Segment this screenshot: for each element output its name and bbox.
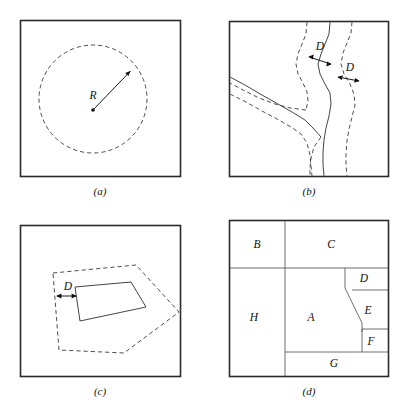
region-c: C <box>327 238 335 250</box>
panel-c-frame <box>21 226 181 377</box>
panel-a-frame <box>21 21 181 177</box>
figure-canvas: R <box>0 0 408 410</box>
region-d: D <box>359 272 369 284</box>
region-b: B <box>253 238 260 250</box>
caption-a: (a) <box>94 185 107 198</box>
distance-label: D <box>63 280 73 292</box>
region-g: G <box>330 357 339 369</box>
region-f: F <box>366 335 375 347</box>
figure-root: R <box>0 0 408 410</box>
caption-c: (c) <box>94 385 107 398</box>
panel-a: R <box>21 21 181 177</box>
panel-b-frame <box>230 22 389 177</box>
panel-c: D <box>21 226 181 377</box>
caption-b: (b) <box>303 185 316 198</box>
panel-d: B C D H A E F G <box>230 221 389 377</box>
caption-d: (d) <box>303 385 316 398</box>
region-e: E <box>363 304 371 316</box>
region-h: H <box>249 311 259 323</box>
region-a: A <box>306 311 315 323</box>
panel-b: D D <box>230 22 389 177</box>
distance-label-upper: D <box>315 40 325 52</box>
radius-label: R <box>88 89 96 101</box>
distance-label-lower: D <box>345 61 355 73</box>
